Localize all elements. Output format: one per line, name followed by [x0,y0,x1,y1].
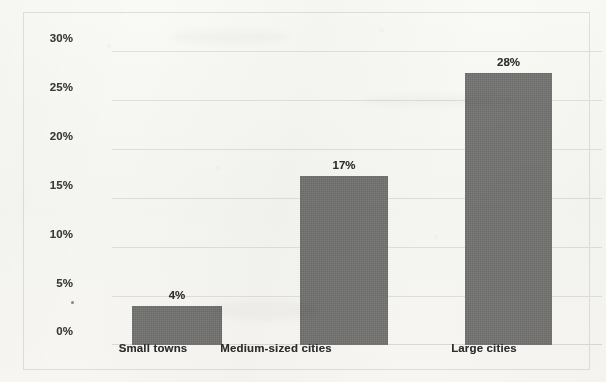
bar-value-medium-sized-cities: 17% [300,159,388,171]
bar-medium-sized-cities[interactable] [300,176,388,345]
y-tick-label-15: 15% [25,180,73,191]
chart-frame: 4% 17% 28% [23,12,590,370]
bar-value-small-towns: 4% [132,289,222,301]
scan-speck [71,301,74,304]
bar-value-large-cities: 28% [465,56,552,68]
bar-small-towns[interactable] [132,306,222,345]
x-axis-label-large-cities: Large cities [394,342,574,355]
plot-area: 4% 17% 28% [112,51,602,345]
x-axis-label-medium-sized-cities: Medium-sized cities [186,342,366,355]
y-tick-label-25: 25% [25,82,73,93]
y-tick-label-20: 20% [25,131,73,142]
y-tick-label-0: 0% [25,326,73,337]
gridline-30 [112,51,602,52]
bar-large-cities[interactable] [465,73,552,345]
y-tick-label-5: 5% [25,278,73,289]
y-tick-label-30: 30% [25,33,73,44]
y-tick-label-10: 10% [25,229,73,240]
y-axis: 30% 25% 20% 15% 10% 5% 0% [23,0,81,382]
